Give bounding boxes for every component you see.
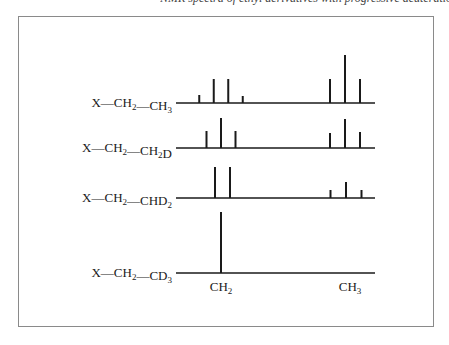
- spectrum-row: X—CH2—CHD2: [82, 167, 375, 210]
- spectrum-row: X—CH2—CH3: [91, 55, 375, 115]
- nmr-stick-diagram: X—CH2—CH3X—CH2—CH2DX—CH2—CHD2X—CH2—CD3CH…: [0, 0, 449, 345]
- group-label-ch2: CH2: [210, 279, 233, 296]
- compound-label: X—CH2—CH2D: [82, 140, 172, 161]
- compound-label: X—CH2—CD3: [91, 265, 172, 285]
- compound-label: X—CH2—CH3: [91, 95, 172, 115]
- compound-label: X—CH2—CHD2: [82, 190, 172, 210]
- spectrum-row: X—CH2—CH2D: [82, 118, 375, 161]
- spectrum-row: X—CH2—CD3: [91, 212, 375, 285]
- group-label-ch3: CH3: [339, 279, 362, 296]
